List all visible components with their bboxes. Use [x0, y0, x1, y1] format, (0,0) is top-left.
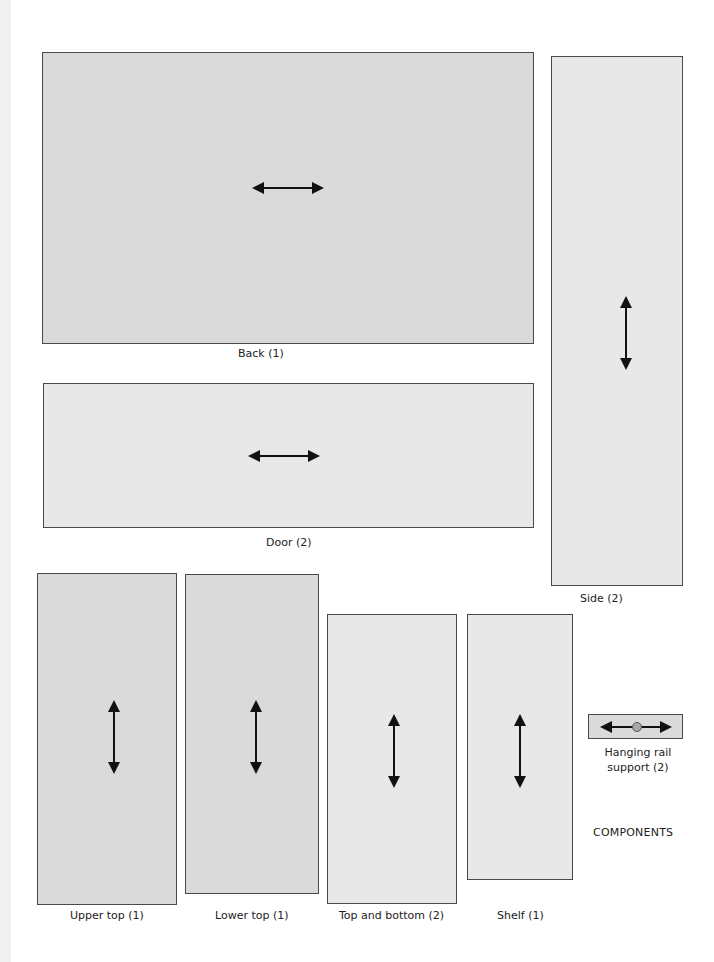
panel-hanging-rail-support-label-line2: support (2): [590, 760, 686, 775]
panel-side-label: Side (2): [580, 591, 660, 606]
grain-arrow-horizontal-icon: [252, 181, 324, 195]
page-edge-strip: [0, 0, 11, 962]
panel-back-label: Back (1): [238, 346, 318, 361]
panel-upper-top-label: Upper top (1): [70, 908, 160, 923]
panel-hanging-rail-support-label-line1: Hanging rail: [590, 745, 686, 760]
grain-arrow-vertical-icon: [387, 714, 401, 788]
grain-arrow-vertical-icon: [249, 700, 263, 774]
grain-arrow-horizontal-with-hole-icon: [600, 720, 672, 734]
grain-arrow-vertical-icon: [619, 296, 633, 370]
grain-arrow-vertical-icon: [107, 700, 121, 774]
diagram-caption: COMPONENTS: [593, 826, 673, 839]
panel-shelf-label: Shelf (1): [497, 908, 567, 923]
panel-side: [551, 56, 683, 586]
grain-arrow-vertical-icon: [513, 714, 527, 788]
panel-back: [42, 52, 534, 344]
panel-top-and-bottom-label: Top and bottom (2): [339, 908, 459, 923]
panel-door-label: Door (2): [266, 535, 346, 550]
panel-lower-top-label: Lower top (1): [215, 908, 305, 923]
grain-arrow-horizontal-icon: [248, 449, 320, 463]
